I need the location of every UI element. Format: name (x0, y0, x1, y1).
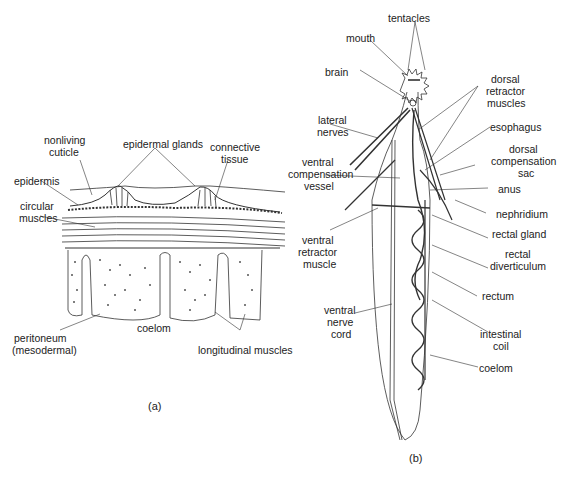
label-rectum: rectum (482, 290, 514, 302)
caption-b: (b) (409, 452, 422, 464)
label-nonliving-cuticle-1: nonliving (44, 134, 85, 146)
label-ventral-retractor-1: ventral (302, 234, 334, 246)
label-coelom-b: coelom (479, 362, 513, 374)
label-connective-tissue-1: connective (210, 141, 260, 153)
label-peritoneum-1: peritoneum (14, 332, 67, 344)
label-ventral-nerve-3: cord (331, 328, 351, 340)
label-nephridium: nephridium (496, 208, 548, 220)
label-dorsal-retractor-2: retractor (486, 85, 525, 97)
label-anus: anus (498, 183, 521, 195)
label-ventral-comp-3: vessel (304, 180, 334, 192)
label-ventral-retractor-2: retractor (298, 246, 337, 258)
label-ventral-nerve-1: ventral (324, 304, 356, 316)
caption-a: (a) (148, 400, 161, 412)
label-ventral-retractor-3: muscle (303, 258, 336, 270)
label-intestinal-coil-1: intestinal (480, 328, 521, 340)
label-lateral-nerves-1: lateral (318, 114, 347, 126)
label-epidermal-glands: epidermal glands (123, 138, 203, 150)
anatomy-drawing (0, 0, 568, 484)
label-connective-tissue-2: tissue (221, 153, 248, 165)
label-rectal-div-1: rectal (505, 248, 531, 260)
label-esophagus: esophagus (490, 121, 541, 133)
label-dorsal-retractor-1: dorsal (491, 73, 520, 85)
label-ventral-nerve-2: nerve (327, 316, 353, 328)
label-mouth: mouth (346, 32, 375, 44)
worm-body (345, 69, 452, 440)
label-brain: brain (325, 66, 348, 78)
label-epidermis: epidermis (14, 175, 60, 187)
label-ventral-comp-1: ventral (302, 156, 334, 168)
label-circular-muscles-2: muscles (19, 212, 58, 224)
body-wall-section (62, 186, 285, 321)
label-nonliving-cuticle-2: cuticle (49, 146, 79, 158)
label-lateral-nerves-2: nerves (317, 126, 349, 138)
label-coelom-a: coelom (137, 322, 171, 334)
label-dorsal-comp-3: sac (518, 167, 534, 179)
label-rectal-gland: rectal gland (492, 228, 546, 240)
label-dorsal-comp-2: compensation (491, 155, 556, 167)
label-peritoneum-2: (mesodermal) (12, 344, 77, 356)
label-dorsal-retractor-3: muscles (487, 97, 526, 109)
label-tentacles: tentacles (388, 12, 430, 24)
label-circular-muscles-1: circular (20, 200, 54, 212)
label-longitudinal-muscles: longitudinal muscles (198, 344, 293, 356)
label-ventral-comp-2: compensation (288, 168, 353, 180)
label-dorsal-comp-1: dorsal (509, 143, 538, 155)
label-rectal-div-2: diverticulum (490, 260, 546, 272)
label-intestinal-coil-2: coil (493, 340, 509, 352)
